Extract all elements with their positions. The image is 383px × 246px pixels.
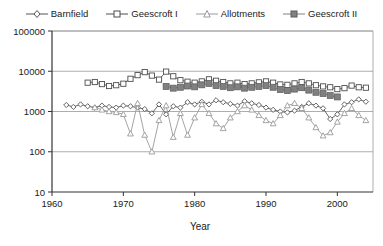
data-point [213, 98, 218, 103]
open-triangle-icon [196, 9, 218, 19]
data-point [185, 83, 191, 89]
data-point [206, 80, 212, 86]
legend-item-barnfield: Barnfield [26, 9, 89, 19]
data-point [335, 87, 340, 92]
data-point [142, 132, 148, 137]
data-point [220, 125, 226, 130]
legend-item-geescroft-ii: Geescroft II [283, 9, 357, 19]
data-point [349, 100, 354, 105]
data-point [64, 102, 69, 107]
data-point [256, 102, 261, 107]
data-point [313, 103, 318, 108]
data-point [163, 103, 169, 108]
data-point [85, 80, 90, 85]
y-axis-tick-label: 100 [29, 146, 45, 157]
data-point [128, 104, 133, 109]
open-diamond-icon [26, 9, 48, 19]
data-point [349, 105, 355, 110]
y-axis-tick-label: 1000 [24, 106, 45, 117]
x-axis-tick-label: 1970 [113, 198, 134, 209]
data-point [327, 130, 333, 135]
data-point [277, 87, 283, 93]
data-point [228, 101, 233, 106]
y-axis-tick-label: 10 [34, 187, 45, 198]
data-point [163, 83, 169, 89]
data-point [106, 83, 111, 88]
data-point [192, 115, 198, 120]
x-axis-tick-label: 2000 [327, 198, 348, 209]
data-point [356, 85, 361, 90]
data-point [142, 70, 147, 75]
legend-label-barnfield: Barnfield [51, 9, 89, 19]
data-point [178, 78, 183, 83]
data-point [206, 102, 211, 107]
data-point [335, 112, 340, 117]
tick-labels: 1000001000010001001019601970198019902000 [13, 26, 348, 210]
data-point [363, 117, 369, 122]
data-point [328, 116, 333, 121]
data-point [92, 79, 97, 84]
data-point [292, 81, 297, 86]
data-point [71, 104, 76, 109]
series-geescroft-i [85, 69, 368, 92]
data-point [220, 83, 226, 89]
data-point [242, 85, 248, 91]
y-axis-tick-label: 100000 [13, 26, 45, 37]
data-point [306, 87, 312, 93]
data-point [142, 106, 147, 111]
chart-legend: Barnfield Geescroft I Allotments [0, 4, 383, 24]
data-point [121, 81, 126, 86]
data-point [320, 106, 325, 111]
data-point [242, 103, 248, 108]
x-axis-tick-label: 1990 [255, 198, 276, 209]
data-point [285, 110, 290, 115]
series-allotments [92, 100, 369, 154]
legend-label-geescroft-ii: Geescroft II [308, 9, 357, 19]
data-point [256, 83, 262, 89]
chart-container: Barnfield Geescroft I Allotments [0, 0, 383, 246]
data-point [213, 83, 219, 89]
data-point [128, 76, 133, 81]
y-axis-tick-label: 10000 [19, 66, 45, 77]
data-point [192, 84, 198, 90]
data-point [263, 105, 268, 110]
data-point [320, 91, 326, 97]
data-point [313, 89, 319, 95]
data-point [156, 117, 162, 122]
data-point [78, 102, 83, 107]
data-point [292, 108, 297, 113]
data-point [249, 107, 255, 112]
filled-square-icon [283, 9, 305, 19]
data-point [256, 112, 262, 117]
data-point [149, 73, 154, 78]
data-point [234, 84, 240, 90]
data-point [99, 81, 104, 86]
data-point [284, 88, 290, 94]
series-line [95, 103, 366, 152]
data-point [164, 69, 169, 74]
data-point [363, 85, 368, 90]
data-point [342, 86, 347, 91]
data-point [263, 83, 269, 89]
data-point [249, 84, 255, 90]
data-point [270, 84, 276, 90]
data-point [171, 74, 176, 79]
data-point [306, 81, 311, 86]
data-point [327, 92, 333, 98]
data-point [227, 85, 233, 91]
data-point [114, 83, 119, 88]
data-point [249, 101, 254, 106]
open-square-icon [106, 9, 128, 19]
data-point [185, 132, 191, 137]
data-point [121, 103, 126, 108]
data-point [170, 134, 176, 139]
legend-item-geescroft-i: Geescroft I [106, 9, 177, 19]
data-point [349, 83, 354, 88]
legend-item-allotments: Allotments [196, 9, 265, 19]
data-point [263, 117, 269, 122]
legend-label-allotments: Allotments [221, 9, 265, 19]
legend-label-geescroft-i: Geescroft I [131, 9, 177, 19]
data-point [356, 97, 361, 102]
data-point [85, 104, 90, 109]
data-point [320, 84, 325, 89]
